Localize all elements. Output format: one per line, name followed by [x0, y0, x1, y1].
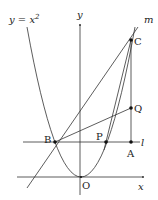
parabola-curve	[27, 27, 135, 177]
point-b-label: B	[44, 134, 51, 145]
x-axis-label: x	[138, 181, 144, 192]
point-o-label: O	[82, 180, 90, 191]
line-l-label: l	[141, 137, 144, 148]
point-c	[129, 38, 133, 42]
x-axis-arrow-dot	[142, 176, 144, 178]
parabola-diagram: y = x2 y x m l C Q A B P O	[0, 0, 158, 200]
curve-label: y = x2	[8, 13, 40, 25]
point-a	[129, 140, 133, 144]
y-axis-arrow-dot	[79, 24, 81, 26]
point-q	[129, 106, 133, 110]
y-axis-label: y	[76, 9, 83, 20]
point-p	[104, 140, 108, 144]
point-a-label: A	[126, 148, 135, 159]
point-q-label: Q	[134, 103, 142, 114]
line-m	[27, 27, 138, 188]
point-o	[80, 176, 82, 178]
point-p-label: P	[96, 131, 103, 142]
point-b	[53, 140, 57, 144]
segment-bq	[55, 108, 131, 142]
line-m-label: m	[144, 14, 153, 25]
point-c-label: C	[134, 36, 142, 47]
